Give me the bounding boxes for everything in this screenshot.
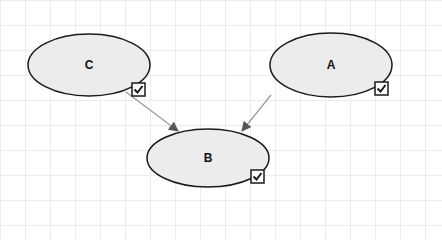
node-c-label: C: [85, 58, 94, 72]
node-a[interactable]: A: [270, 33, 392, 97]
node-b[interactable]: B: [147, 129, 269, 187]
node-b-checkbox[interactable]: [251, 170, 264, 183]
edge-c-to-b[interactable]: [126, 92, 178, 131]
node-b-label: B: [204, 151, 213, 165]
edge-a-to-b[interactable]: [242, 95, 271, 131]
node-a-label: A: [327, 58, 336, 72]
diagram-canvas[interactable]: C A B: [0, 0, 442, 210]
node-c-checkbox[interactable]: [132, 83, 145, 96]
node-a-checkbox[interactable]: [375, 82, 388, 95]
node-c[interactable]: C: [28, 34, 150, 96]
